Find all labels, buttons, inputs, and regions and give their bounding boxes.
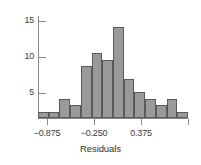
x-axis-line — [38, 118, 188, 119]
x-tick-label-0: −0.875 — [25, 128, 69, 138]
table-row — [113, 27, 124, 118]
table-row — [59, 99, 70, 119]
x-tick-2 — [141, 119, 142, 125]
x-tick-3 — [188, 119, 189, 125]
x-tick-1 — [94, 119, 95, 125]
x-tick-label-2: 0.375 — [119, 128, 163, 138]
table-row — [70, 105, 81, 118]
y-tick-label-5: 5 — [12, 87, 34, 97]
table-row — [92, 53, 103, 118]
table-row — [145, 99, 156, 119]
x-tick-label-1: −0.250 — [72, 128, 116, 138]
y-tick-label-10-wrap: 10 — [8, 51, 34, 63]
table-row — [156, 105, 167, 118]
y-tick-label-10: 10 — [12, 51, 34, 61]
table-row — [134, 92, 145, 118]
y-tick-label-15-wrap: 15 — [8, 15, 34, 27]
bar-series — [38, 14, 188, 118]
x-tick-0 — [47, 119, 48, 125]
histogram-chart: 15 10 5 −0.875 −0.250 0.375 Residuals — [0, 0, 201, 165]
table-row — [124, 79, 135, 118]
table-row — [81, 66, 92, 118]
table-row — [167, 99, 178, 119]
y-tick-label-5-wrap: 5 — [8, 87, 34, 99]
y-tick-label-15: 15 — [12, 15, 34, 25]
table-row — [102, 60, 113, 119]
x-axis-title: Residuals — [0, 143, 201, 154]
